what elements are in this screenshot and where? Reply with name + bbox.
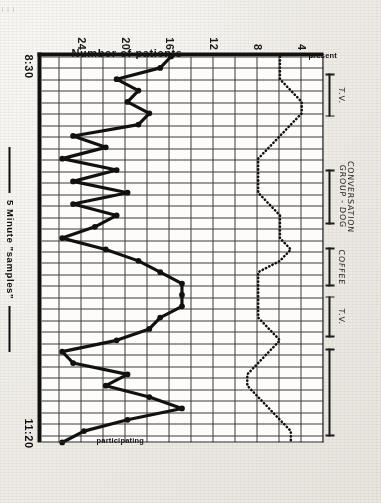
event-annotation-conv-group: CONVERSATIONGROUP - DOG bbox=[325, 169, 353, 224]
x-axis-rule-right bbox=[9, 306, 11, 352]
data-point-marker bbox=[70, 178, 76, 184]
bracket-cap-right bbox=[325, 222, 334, 224]
event-annotation-tv-3 bbox=[325, 348, 336, 436]
event-annotation-coffee: COFFEE bbox=[325, 247, 344, 286]
event-annotation-label: T.V. bbox=[336, 86, 344, 103]
event-annotation-bracket bbox=[325, 169, 334, 224]
bracket-cap-left bbox=[325, 73, 334, 75]
y-axis-title: Number of patients bbox=[71, 46, 182, 58]
data-point-marker bbox=[59, 155, 65, 161]
data-point-marker bbox=[113, 76, 119, 82]
data-point-marker bbox=[70, 133, 76, 139]
bracket-cap-left bbox=[325, 247, 334, 249]
series-label-participating: participating bbox=[96, 435, 144, 444]
y-tick-label: 12 bbox=[207, 37, 219, 50]
x-axis-rule-left bbox=[9, 147, 11, 193]
event-annotation-label: CONVERSATIONGROUP - DOG bbox=[336, 160, 353, 233]
event-annotation-bracket bbox=[325, 296, 334, 337]
data-point-marker bbox=[59, 348, 65, 354]
series-line-participating bbox=[62, 56, 182, 442]
bracket-cap-right bbox=[325, 115, 334, 117]
figure-stage: T.V.CONVERSATIONGROUP - DOGCOFFEET.V. 24… bbox=[0, 0, 381, 503]
data-point-marker bbox=[102, 246, 108, 252]
data-point-marker bbox=[59, 235, 65, 241]
plot-area: 2420161284 Number of patients 8:30 11:20… bbox=[37, 52, 323, 442]
bracket-cap-left bbox=[325, 296, 334, 298]
event-annotation-bracket bbox=[325, 247, 334, 286]
data-point-marker bbox=[146, 394, 152, 400]
event-annotation-bracket bbox=[325, 73, 334, 116]
x-axis-title-text: 5 Minute "samples" bbox=[4, 200, 15, 299]
series-label-present: present bbox=[308, 50, 337, 59]
data-series-layer bbox=[40, 56, 323, 442]
bracket-cap-left bbox=[325, 348, 334, 350]
event-annotation-label: T.V. bbox=[336, 308, 344, 325]
bracket-cap-right bbox=[325, 284, 334, 286]
event-annotation-tv-1: T.V. bbox=[325, 73, 344, 116]
event-annotation-label: COFFEE bbox=[336, 249, 344, 285]
bracket-cap-right bbox=[325, 335, 334, 337]
event-annotations: T.V.CONVERSATIONGROUP - DOGCOFFEET.V. bbox=[325, 52, 373, 442]
bracket-cap-left bbox=[325, 169, 334, 171]
x-start-time: 8:30 bbox=[22, 54, 34, 78]
x-axis-title: 5 Minute "samples" bbox=[4, 147, 15, 352]
y-tick-label: 8 bbox=[251, 43, 263, 50]
event-annotation-tv-2: T.V. bbox=[325, 296, 344, 337]
series-line-present bbox=[247, 56, 301, 442]
bracket-cap-right bbox=[325, 434, 334, 436]
event-annotation-bracket bbox=[325, 348, 334, 436]
x-end-time: 11:20 bbox=[22, 418, 34, 448]
y-tick-label: 4 bbox=[295, 43, 307, 50]
data-point-marker bbox=[70, 201, 76, 207]
